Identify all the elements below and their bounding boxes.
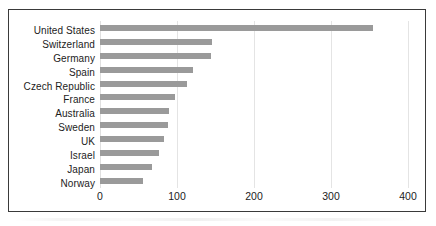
category-label: UK bbox=[81, 136, 95, 147]
gridline-400 bbox=[408, 21, 409, 188]
bar-row: UK bbox=[100, 132, 408, 146]
x-tick-label: 200 bbox=[245, 190, 263, 202]
bar: United States bbox=[100, 25, 373, 31]
bar: Germany bbox=[100, 53, 211, 59]
bar: Switzerland bbox=[100, 39, 212, 45]
bar-row: Israel bbox=[100, 146, 408, 160]
category-label: Switzerland bbox=[42, 39, 95, 50]
bar-row: France bbox=[100, 91, 408, 105]
bar: Czech Republic bbox=[100, 81, 187, 87]
category-label: United States bbox=[34, 25, 95, 36]
category-label: Czech Republic bbox=[24, 81, 95, 92]
chart-frame: United StatesSwitzerlandGermanySpainCzec… bbox=[8, 9, 426, 212]
category-label: Sweden bbox=[58, 122, 95, 133]
bar-row: Germany bbox=[100, 49, 408, 63]
x-axis: 0100200300400 bbox=[100, 190, 408, 206]
bar: Spain bbox=[100, 67, 193, 73]
bar-row: Switzerland bbox=[100, 35, 408, 49]
x-tick-label: 300 bbox=[322, 190, 340, 202]
bar: Australia bbox=[100, 108, 169, 114]
bar-row: Norway bbox=[100, 174, 408, 188]
plot-area: United StatesSwitzerlandGermanySpainCzec… bbox=[100, 21, 408, 188]
bar: Norway bbox=[100, 178, 143, 184]
bar: France bbox=[100, 94, 175, 100]
bar: Japan bbox=[100, 164, 152, 170]
category-label: Spain bbox=[69, 67, 95, 78]
x-tick-label: 0 bbox=[97, 190, 103, 202]
bar: Israel bbox=[100, 150, 159, 156]
category-label: Australia bbox=[55, 108, 95, 119]
category-label: Germany bbox=[53, 53, 95, 64]
x-tick-label: 100 bbox=[168, 190, 186, 202]
category-label: Norway bbox=[61, 178, 96, 189]
bar-rows: United StatesSwitzerlandGermanySpainCzec… bbox=[100, 21, 408, 188]
bar-row: Australia bbox=[100, 104, 408, 118]
category-label: Israel bbox=[70, 150, 95, 161]
bar: Sweden bbox=[100, 122, 168, 128]
scan-artifact bbox=[14, 218, 414, 221]
bar-row: Sweden bbox=[100, 118, 408, 132]
bar-row: Czech Republic bbox=[100, 77, 408, 91]
bar-row: United States bbox=[100, 21, 408, 35]
figure: United StatesSwitzerlandGermanySpainCzec… bbox=[0, 0, 436, 226]
category-label: Japan bbox=[67, 164, 95, 175]
category-label: France bbox=[63, 94, 95, 105]
x-tick-label: 400 bbox=[399, 190, 417, 202]
bar-row: Spain bbox=[100, 63, 408, 77]
bar: UK bbox=[100, 136, 164, 142]
bar-row: Japan bbox=[100, 160, 408, 174]
